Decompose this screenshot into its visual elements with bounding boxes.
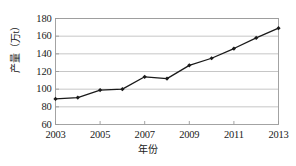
y-axis-tick-label: 80: [28, 102, 52, 113]
data-point-marker: [76, 95, 80, 99]
x-axis-tick-label: 2003: [39, 130, 73, 141]
y-axis-tick-label: 140: [28, 49, 52, 60]
data-point-marker: [232, 46, 236, 50]
data-point-marker: [210, 56, 214, 60]
x-axis-tick-label: 2005: [83, 130, 117, 141]
data-point-marker: [53, 97, 57, 101]
x-axis-title: 年份: [0, 145, 295, 155]
y-axis-title: 产量（万t）: [11, 9, 21, 85]
x-axis-tick-label: 2007: [128, 130, 162, 141]
data-point-marker: [98, 88, 102, 92]
data-line-series-0: [56, 28, 279, 99]
x-axis-tick-label: 2009: [172, 130, 206, 141]
y-axis-tick-label: 180: [28, 14, 52, 25]
x-axis-tick-label: 2011: [217, 130, 251, 141]
line-chart: 产量（万t） 年份 608010012014016018020032005200…: [0, 0, 295, 166]
x-axis-tick-label: 2013: [262, 130, 296, 141]
data-point-marker: [276, 26, 280, 30]
y-axis-tick-label: 120: [28, 67, 52, 78]
y-axis-tick-label: 100: [28, 84, 52, 95]
y-axis-tick-label: 160: [28, 31, 52, 42]
